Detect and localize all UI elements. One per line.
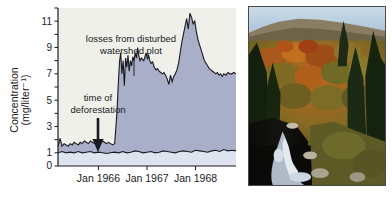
- x-tick-label: Jan 1966: [77, 172, 120, 184]
- photo-artwork: [249, 7, 385, 185]
- y-tick-label: 0: [46, 160, 52, 171]
- y-tick-label: 5: [46, 95, 52, 106]
- x-tick-label: Jan 1968: [174, 172, 217, 184]
- y-axis-title-line2: (mg/liter⁻¹): [19, 75, 31, 126]
- y-axis-title-units: (mg/liter⁻¹): [19, 75, 31, 126]
- annotation-deforestation-line1: time of: [84, 92, 113, 103]
- annotation-deforestation-line2: deforestation: [71, 104, 126, 115]
- x-tick-label: Jan 1967: [125, 172, 168, 184]
- y-tick-label: 7: [46, 68, 52, 79]
- y-tick-label: 11: [42, 16, 53, 27]
- figure-panel: 01357911 Jan 1966Jan 1967Jan 1968 Concen…: [0, 0, 392, 201]
- annotation-losses-line2: watershed plot: [99, 45, 162, 56]
- y-tick-label: 9: [46, 42, 52, 53]
- y-tick-label: 3: [46, 121, 52, 132]
- y-tick-label: 1: [46, 147, 52, 158]
- y-tick-labels: 01357911: [42, 16, 53, 172]
- x-tick-labels: Jan 1966Jan 1967Jan 1968: [77, 172, 217, 184]
- annotation-losses-line1: losses from disturbed: [86, 33, 176, 44]
- y-axis-title: Concentration (mg/liter⁻¹): [8, 67, 31, 133]
- forested-watershed-stream-photograph: [248, 6, 386, 186]
